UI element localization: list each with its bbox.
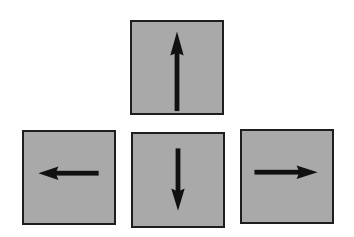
arrow-up-icon	[132, 22, 222, 113]
diagram-title: Arrow keys	[0, 0, 1, 1]
arrow-left-icon	[24, 132, 114, 223]
arrow-right-icon	[242, 131, 332, 222]
right-arrow-key[interactable]: Right arrow key	[240, 129, 334, 224]
arrow-down-icon	[133, 134, 223, 226]
up-arrow-key[interactable]: Up arrow key	[130, 20, 224, 115]
left-arrow-key[interactable]: Left arrow key	[22, 130, 116, 225]
down-arrow-key[interactable]: Down arrow key	[131, 132, 225, 228]
